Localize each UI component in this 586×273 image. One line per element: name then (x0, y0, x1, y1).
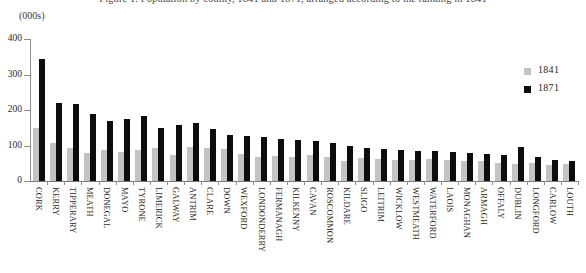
bar-group (272, 39, 284, 181)
bar-group (478, 39, 490, 181)
x-axis-tick-mark (458, 181, 459, 185)
bar-1871 (141, 116, 147, 181)
x-axis-tick-mark (201, 181, 202, 185)
x-axis-tick-mark (441, 181, 442, 185)
bar-group (152, 39, 164, 181)
x-axis-tick-mark (304, 181, 305, 185)
x-axis-tick-mark (253, 181, 254, 185)
bar-group (426, 39, 438, 181)
x-axis-label-cavan: CAVAN (308, 187, 316, 215)
x-axis-label-cork: CORK (34, 187, 42, 211)
x-axis-tick-mark (407, 181, 408, 185)
legend-swatch-icon (524, 86, 531, 93)
legend-swatch-icon (524, 68, 531, 75)
bar-1871 (158, 128, 164, 181)
legend-label: 1841 (538, 64, 559, 75)
bar-1871 (347, 146, 353, 182)
x-axis-label-londonderry: LONDONDERRY (256, 187, 264, 252)
x-axis-label-wexford: WEXFORD (239, 187, 247, 229)
x-axis-tick-mark (338, 181, 339, 185)
x-axis-label-leitrim: LEITRIM (376, 187, 384, 222)
bar-1871 (569, 161, 575, 181)
x-axis-label-dublin: DUBLIN (513, 187, 521, 220)
x-axis-label-galway: GALWAY (171, 187, 179, 223)
bar-1871 (330, 143, 336, 181)
bar-1871 (56, 103, 62, 181)
x-axis-label-westmeath: WESTMEATH (410, 187, 418, 240)
x-axis-label-tipperary: TIPPERARY (68, 187, 76, 234)
bar-group (546, 39, 558, 181)
bar-1871 (501, 155, 507, 181)
x-axis-label-tyrone: TYRONE (136, 187, 144, 222)
x-axis-tick-mark (150, 181, 151, 185)
bar-1871 (210, 129, 216, 181)
x-axis-label-kerry: KERRY (51, 187, 59, 216)
bar-group (392, 39, 404, 181)
x-axis-label-louth: LOUTH (564, 187, 572, 216)
bar-1871 (107, 121, 113, 181)
y-axis-tick-label: 0 (0, 175, 22, 185)
x-axis-tick-mark (424, 181, 425, 185)
bar-group (563, 39, 575, 181)
bar-1871 (313, 141, 319, 181)
bar-group (529, 39, 541, 181)
bar-group (50, 39, 62, 181)
x-axis-label-kilkenny: KILKENNY (290, 187, 298, 231)
x-axis-label-donegal: DONEGAL (102, 187, 110, 229)
bar-1871 (484, 154, 490, 181)
x-axis-tick-mark (218, 181, 219, 185)
bar-group (187, 39, 199, 181)
bar-1871 (450, 152, 456, 181)
x-axis-label-clare: CLARE (205, 187, 213, 215)
bar-1871 (176, 125, 182, 181)
x-axis-label-longford: LONGFORD (530, 187, 538, 234)
bar-group (409, 39, 421, 181)
x-axis-label-fermanagh: FERMANAGH (273, 187, 281, 241)
bar-group (375, 39, 387, 181)
x-axis-label-carlow: CARLOW (547, 187, 555, 224)
x-axis-tick-mark (510, 181, 511, 185)
chart-legend: 18411871 (524, 64, 584, 100)
x-axis-label-sligo: SLIGO (359, 187, 367, 212)
bar-group (307, 39, 319, 181)
x-axis-tick-mark (492, 181, 493, 185)
bar-group (204, 39, 216, 181)
y-axis-units-label: (000s) (19, 10, 45, 21)
x-axis-tick-mark (527, 181, 528, 185)
bar-group (444, 39, 456, 181)
x-axis-tick-mark (81, 181, 82, 185)
x-axis-tick-mark (47, 181, 48, 185)
bar-1871 (261, 137, 267, 181)
bar-1871 (381, 149, 387, 181)
bar-1871 (90, 114, 96, 181)
bar-group (221, 39, 233, 181)
x-axis-tick-mark (373, 181, 374, 185)
bar-group (324, 39, 336, 181)
bar-1871 (193, 123, 199, 181)
x-axis-label-roscommon: ROSCOMMON (325, 187, 333, 243)
legend-item: 1841 (524, 64, 584, 82)
x-axis-tick-mark (270, 181, 271, 185)
bar-1871 (39, 59, 45, 181)
bar-group (33, 39, 45, 181)
x-axis-label-limerick: LIMERICK (153, 187, 161, 229)
x-axis-tick-mark (321, 181, 322, 185)
bar-1871 (124, 119, 130, 181)
y-axis-tick-label: 200 (0, 104, 22, 114)
x-axis-tick-mark (544, 181, 545, 185)
bar-1871 (73, 104, 79, 181)
bar-1871 (227, 135, 233, 181)
y-axis-tick-mark (24, 181, 30, 182)
x-axis-tick-mark (133, 181, 134, 185)
y-axis-tick-label: 100 (0, 140, 22, 150)
legend-item: 1871 (524, 82, 584, 100)
bar-1871 (432, 151, 438, 181)
bar-group (289, 39, 301, 181)
bar-group (101, 39, 113, 181)
x-axis-label-waterford: WATERFORD (427, 187, 435, 239)
plot-area (30, 39, 578, 181)
bar-group (341, 39, 353, 181)
bar-1871 (364, 148, 370, 181)
bar-1871 (295, 140, 301, 181)
bar-group (461, 39, 473, 181)
